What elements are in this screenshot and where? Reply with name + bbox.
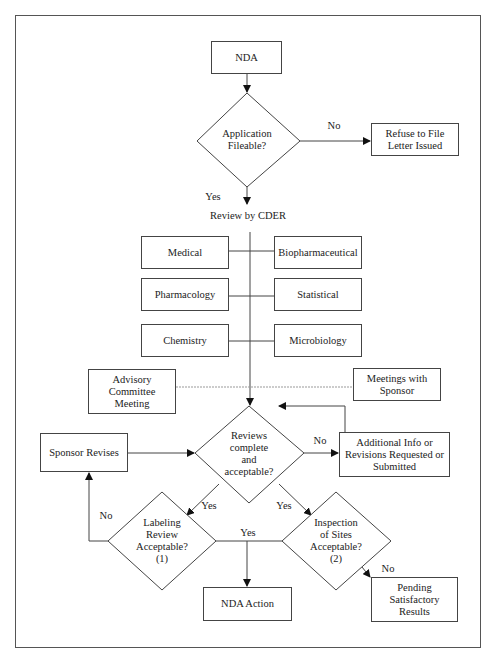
node-chemistry-label: Chemistry — [163, 335, 207, 347]
node-review-by-cder: Review by CDER — [190, 210, 306, 222]
node-microbiology-label: Microbiology — [289, 335, 347, 347]
node-reviews-complete-label: Reviews complete and acceptable? — [209, 430, 289, 478]
edge-labeling-sponsor — [89, 473, 108, 541]
node-fileable-label: Application Fileable? — [207, 128, 287, 152]
node-pharmacology-label: Pharmacology — [155, 289, 216, 301]
edge-label-inspection-no: No — [376, 563, 400, 575]
node-labeling-label: Labeling Review Acceptable? (1) — [122, 517, 202, 565]
node-nda-action-label: NDA Action — [221, 598, 274, 610]
flowchart-canvas: NDA Refuse to File Letter Issued Review … — [0, 0, 491, 659]
node-nda-label: NDA — [235, 52, 258, 64]
node-microbiology: Microbiology — [274, 324, 362, 357]
edge-label-labeling-inspection-yes: Yes — [236, 527, 260, 539]
node-chemistry: Chemistry — [141, 324, 229, 357]
node-statistical-label: Statistical — [297, 289, 338, 301]
node-additional-info: Additional Info or Revisions Requested o… — [339, 432, 450, 477]
edge-additional-reviews — [279, 406, 345, 432]
node-meetings-label: Meetings with Sponsor — [367, 373, 427, 397]
node-pending-results: Pending Satisfactory Results — [371, 577, 458, 622]
node-inspection-label: Inspection of Sites Acceptable? (2) — [296, 517, 376, 565]
node-medical-label: Medical — [168, 247, 202, 259]
node-pending-label: Pending Satisfactory Results — [389, 582, 439, 618]
node-sponsor-revises: Sponsor Revises — [40, 433, 128, 472]
edge-label-reviews-yes-left: Yes — [197, 500, 221, 512]
node-refuse-to-file: Refuse to File Letter Issued — [371, 123, 459, 156]
node-advisory-label: Advisory Committee Meeting — [109, 374, 156, 410]
node-refuse-label: Refuse to File Letter Issued — [386, 128, 445, 152]
node-pharmacology: Pharmacology — [141, 278, 229, 311]
node-meetings-with-sponsor: Meetings with Sponsor — [353, 368, 441, 401]
node-nda: NDA — [211, 41, 282, 74]
node-additional-info-label: Additional Info or Revisions Requested o… — [345, 437, 444, 473]
node-sponsor-revises-label: Sponsor Revises — [49, 447, 119, 459]
edge-label-fileable-yes: Yes — [201, 191, 225, 203]
edge-label-reviews-no: No — [308, 435, 332, 447]
edge-label-reviews-yes-right: Yes — [272, 500, 296, 512]
edge-label-fileable-no: No — [322, 120, 346, 132]
edge-inspection-pending — [362, 567, 370, 577]
node-medical: Medical — [141, 236, 229, 269]
edge-label-labeling-no: No — [94, 510, 118, 522]
node-statistical: Statistical — [274, 278, 362, 311]
node-nda-action: NDA Action — [203, 587, 292, 621]
connector-layer — [0, 0, 491, 659]
node-advisory-committee: Advisory Committee Meeting — [88, 369, 176, 414]
node-biopharmaceutical: Biopharmaceutical — [274, 236, 362, 269]
node-biopharm-label: Biopharmaceutical — [278, 247, 357, 259]
